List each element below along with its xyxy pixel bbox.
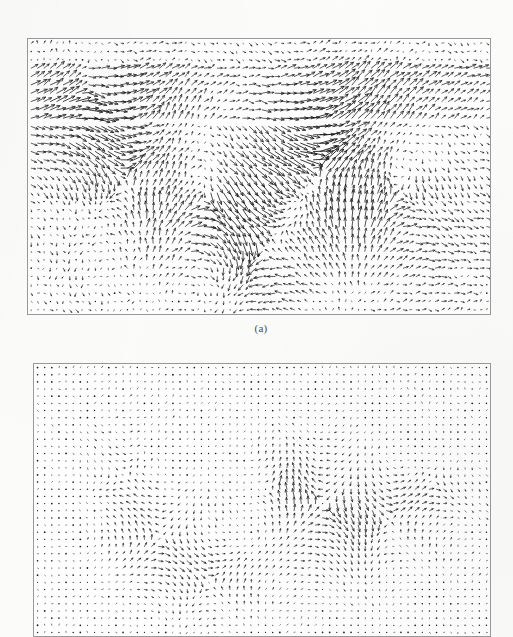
quiver-plot-b	[34, 364, 490, 636]
quiver-panel-a	[27, 38, 491, 315]
quiver-plot-a	[28, 39, 490, 314]
quiver-panel-b	[33, 363, 491, 637]
figure-page: (a)	[0, 0, 513, 637]
panel-a-caption: (a)	[181, 322, 341, 334]
